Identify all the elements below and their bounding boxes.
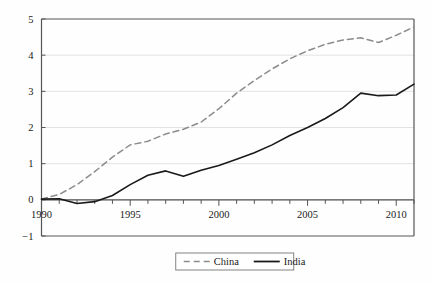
x-tick-label: 1990: [31, 209, 52, 220]
y-tick-label: 1: [28, 158, 33, 169]
y-tick-label: 5: [28, 14, 33, 25]
grid-lines: [42, 55, 415, 200]
legend-label-india: India: [284, 256, 306, 267]
series-line-india: [42, 84, 415, 203]
y-axis-tick-labels: −1012345: [22, 14, 34, 242]
line-chart: −1012345 19901995200020052010 ChinaIndia: [0, 0, 432, 283]
series-lines: [42, 27, 415, 203]
y-tick-label: 2: [28, 122, 33, 133]
y-tick-label: 4: [28, 50, 34, 61]
y-tick-label: 3: [28, 86, 33, 97]
y-tick-label: 0: [28, 194, 33, 205]
x-tick-label: 2010: [386, 209, 407, 220]
x-tick-label: 1995: [120, 209, 141, 220]
x-tick-label: 2005: [297, 209, 318, 220]
x-axis-tick-labels: 19901995200020052010: [31, 209, 407, 220]
x-tick-label: 2000: [208, 209, 229, 220]
y-tick-label: −1: [22, 231, 33, 242]
chart-legend: ChinaIndia: [176, 253, 306, 270]
legend-label-china: China: [214, 256, 239, 267]
series-line-china: [42, 27, 415, 199]
chart-container: −1012345 19901995200020052010 ChinaIndia: [0, 0, 432, 283]
